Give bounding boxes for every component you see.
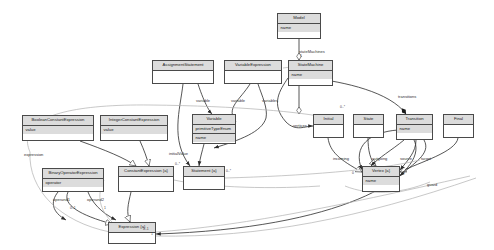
- edge-label-operand1: operand1: [53, 198, 70, 202]
- edge-label-vertices: vertices: [293, 124, 307, 128]
- multiplicity-label: 1: [300, 55, 302, 58]
- multiplicity-label: 0: [352, 172, 354, 175]
- class-node-title: Transition: [397, 115, 432, 125]
- class-node-body: [278, 32, 320, 38]
- class-attribute: name: [289, 71, 332, 79]
- class-node-title: Statement {a}: [184, 167, 224, 177]
- class-node-attributes: [444, 125, 473, 137]
- edge-label-variable_b: variable: [231, 99, 245, 103]
- class-node-body: [397, 133, 432, 139]
- class-node-attributes: value: [23, 126, 93, 140]
- class-node-attributes: [314, 125, 343, 137]
- class-node-body: [444, 125, 473, 137]
- class-node-statement[interactable]: Statement {a}: [183, 166, 225, 190]
- class-node-title: AssignmentStatement: [153, 61, 213, 71]
- class-node-statemachine[interactable]: StateMachinename: [288, 60, 333, 86]
- edge-label-incoming: incoming: [333, 157, 349, 161]
- class-node-body: [225, 71, 281, 83]
- class-node-body: [101, 134, 167, 140]
- class-node-body: [109, 233, 155, 243]
- edge-label-expression: expression: [24, 153, 43, 157]
- class-node-title: BooleanConstantExpression: [23, 116, 93, 126]
- multiplicity-label: 0..1: [70, 207, 76, 210]
- class-node-attributes: name: [397, 125, 432, 139]
- class-node-attributes: name: [278, 24, 320, 38]
- diagram-canvas: ModelnameAssignmentStatementVariableExpr…: [0, 0, 494, 250]
- class-node-body: [153, 71, 213, 83]
- multiplicity-label: 0..1: [143, 228, 149, 231]
- edge-label-guard: guard: [427, 183, 437, 187]
- class-node-title: Final: [444, 115, 473, 125]
- class-node-body: [314, 125, 343, 137]
- class-node-title: Vertex {a}: [363, 167, 399, 177]
- class-node-body: [363, 185, 399, 191]
- edge-label-target: target: [421, 157, 431, 161]
- class-node-title: BinaryOperatorExpression: [43, 169, 103, 179]
- class-attribute: operator: [43, 179, 103, 187]
- class-node-title: IntegerConstantExpression: [101, 116, 167, 126]
- class-node-transition[interactable]: Transitionname: [396, 114, 433, 140]
- class-node-initial[interactable]: Initial: [313, 114, 344, 138]
- edge-label-operand2: operand2: [87, 198, 104, 202]
- edge-label-outgoing: outgoing: [372, 157, 387, 161]
- class-attribute: name: [193, 134, 235, 142]
- class-node-attributes: [354, 125, 383, 137]
- class-node-constexpr[interactable]: ConstantExpression {a}: [118, 166, 174, 192]
- class-node-vertex[interactable]: Vertex {a}name: [362, 166, 400, 192]
- class-attribute: name: [278, 24, 320, 32]
- class-node-attributes: name: [363, 177, 399, 191]
- edge-label-stateMachines: stateMachines: [299, 50, 325, 54]
- class-node-body: [184, 177, 224, 189]
- class-node-attributes: primitiveTypeEnumname: [193, 125, 235, 143]
- class-node-attributes: [153, 71, 213, 83]
- multiplicity-label: 0..*: [340, 106, 345, 109]
- edge-label-initialValue: initialValue: [169, 152, 188, 156]
- multiplicity-label: 0..*: [175, 163, 180, 166]
- multiplicity-label: 1: [151, 233, 153, 236]
- multiplicity-label: 0..*: [226, 170, 231, 173]
- class-node-body: [289, 79, 332, 85]
- edge-label-transitions: transitions: [398, 95, 416, 99]
- class-node-state[interactable]: State: [353, 114, 384, 138]
- class-node-assignment[interactable]: AssignmentStatement: [152, 60, 214, 84]
- class-attribute: value: [101, 126, 167, 134]
- class-node-attributes: [109, 233, 155, 243]
- class-node-title: ConstantExpression {a}: [119, 167, 173, 177]
- class-attribute: name: [363, 177, 399, 185]
- class-node-attributes: [225, 71, 281, 83]
- multiplicity-label: 1: [104, 207, 106, 210]
- class-node-attributes: name: [289, 71, 332, 85]
- class-node-expression[interactable]: Expression {a}: [108, 222, 156, 244]
- class-attribute: primitiveTypeEnum: [193, 125, 235, 134]
- class-node-boolconst[interactable]: BooleanConstantExpressionvalue: [22, 115, 94, 141]
- class-node-binop[interactable]: BinaryOperatorExpressionoperator: [42, 168, 104, 192]
- edge-label-source: source: [400, 157, 412, 161]
- class-node-body: [354, 125, 383, 137]
- class-node-intconst[interactable]: IntegerConstantExpressionvalue: [100, 115, 168, 141]
- class-node-title: Model: [278, 14, 320, 24]
- class-node-title: StateMachine: [289, 61, 332, 71]
- class-node-title: VariableExpression: [225, 61, 281, 71]
- class-attribute: value: [23, 126, 93, 134]
- class-node-title: State: [354, 115, 383, 125]
- class-node-model[interactable]: Modelname: [277, 13, 321, 39]
- class-node-body: [193, 142, 235, 143]
- class-node-attributes: operator: [43, 179, 103, 191]
- class-node-variable[interactable]: VariableprimitiveTypeEnumname: [192, 114, 236, 144]
- class-node-attributes: value: [101, 126, 167, 140]
- class-attribute: name: [397, 125, 432, 133]
- class-node-attributes: [184, 177, 224, 189]
- edge-label-variables: variables: [262, 99, 278, 103]
- class-node-final[interactable]: Final: [443, 114, 474, 138]
- class-node-attributes: [119, 177, 173, 191]
- class-node-body: [43, 187, 103, 191]
- class-node-title: Initial: [314, 115, 343, 125]
- multiplicity-label: 1: [403, 172, 405, 175]
- class-node-title: Variable: [193, 115, 235, 125]
- class-node-varexpr[interactable]: VariableExpression: [224, 60, 282, 84]
- edge-label-variable_a: variable: [196, 99, 210, 103]
- class-node-body: [119, 177, 173, 191]
- class-node-body: [23, 134, 93, 140]
